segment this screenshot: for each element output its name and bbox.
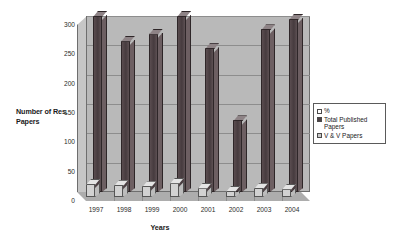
bar-front-face [254, 188, 263, 197]
bar-side-face [263, 187, 268, 197]
x-axis-tick-label: 2004 [277, 206, 307, 213]
bar-front-face [282, 189, 291, 197]
bar-side-face [298, 18, 303, 192]
legend-swatch-total-published-papers-icon [317, 117, 322, 122]
bar-side-face [95, 183, 100, 197]
bar-front-face [198, 188, 207, 197]
bar-total-published-papers [93, 16, 107, 192]
x-axis-tick-label: 2000 [165, 206, 195, 213]
y-axis-tick-label: 100 [51, 138, 75, 145]
bar-side-face [179, 182, 184, 197]
bar-front-face [205, 48, 214, 192]
bar-v-and-v-papers [282, 189, 296, 197]
bar-front-face [149, 34, 158, 192]
bar-v-and-v-papers [226, 191, 240, 197]
bar-total-published-papers [205, 48, 219, 192]
plot-area [77, 16, 310, 201]
bar-side-face [102, 15, 107, 192]
bar-v-and-v-papers [114, 185, 128, 197]
chart-legend: % Total Published Papers V & V Papers [313, 103, 386, 144]
x-axis-title: Years [0, 223, 396, 232]
legend-swatch-v-and-v-papers-icon [317, 133, 322, 138]
bar-top-face [177, 11, 191, 17]
y-axis-tick-label: 50 [51, 168, 75, 175]
bar-v-and-v-papers [142, 186, 156, 197]
gridline [87, 16, 310, 17]
bar-side-face [207, 187, 212, 197]
x-axis-tick-label: 2001 [193, 206, 223, 213]
plot-floor [77, 192, 310, 201]
bar-front-face [261, 29, 270, 192]
y-axis-tick-label: 150 [51, 109, 75, 116]
x-axis-tick-label: 2003 [249, 206, 279, 213]
y-axis-tick-label: 300 [51, 21, 75, 28]
bar-front-face [86, 184, 95, 197]
bar-front-face [233, 120, 242, 192]
bar-total-published-papers [121, 41, 135, 192]
x-axis-tick-label: 1997 [81, 206, 111, 213]
bar-total-published-papers [289, 19, 303, 192]
bar-side-face [158, 33, 163, 192]
bar-chart: Number of Res. Papers 050100150200250300… [0, 0, 396, 238]
y-axis-title-line2: Papers [16, 117, 82, 127]
legend-label-total-published-papers: Total Published Papers [324, 116, 383, 131]
bar-v-and-v-papers [170, 183, 184, 197]
bar-side-face [270, 28, 275, 192]
legend-item-total-published-papers: Total Published Papers [317, 116, 383, 131]
y-axis-tick-label: 250 [51, 50, 75, 57]
bar-v-and-v-papers [86, 184, 100, 197]
bar-front-face [142, 186, 151, 197]
x-axis-tick-label: 1998 [109, 206, 139, 213]
legend-item-percent: % [317, 107, 383, 115]
y-axis-tick-label: 0 [51, 197, 75, 204]
x-axis-tick-label: 2002 [221, 206, 251, 213]
bar-front-face [93, 16, 102, 192]
bar-v-and-v-papers [198, 188, 212, 197]
bar-v-and-v-papers [254, 188, 268, 197]
bar-front-face [170, 183, 179, 197]
bar-side-face [186, 15, 191, 192]
legend-label-v-and-v-papers: V & V Papers [324, 132, 362, 140]
bar-total-published-papers [233, 120, 247, 192]
bar-front-face [121, 41, 130, 192]
bar-total-published-papers [177, 16, 191, 192]
bar-front-face [289, 19, 298, 192]
bar-top-face [93, 11, 107, 17]
legend-swatch-percent-icon [317, 109, 322, 114]
x-axis-tick-label: 1999 [137, 206, 167, 213]
bar-side-face [123, 184, 128, 197]
legend-label-percent: % [324, 107, 330, 115]
bar-side-face [214, 47, 219, 192]
bar-side-face [130, 40, 135, 192]
legend-item-v-and-v-papers: V & V Papers [317, 132, 383, 140]
bar-front-face [114, 185, 123, 197]
bar-total-published-papers [149, 34, 163, 192]
bar-side-face [151, 185, 156, 197]
bar-side-face [242, 119, 247, 192]
bar-front-face [177, 16, 186, 192]
y-axis-tick-label: 200 [51, 80, 75, 87]
bar-total-published-papers [261, 29, 275, 192]
bar-side-face [291, 188, 296, 197]
